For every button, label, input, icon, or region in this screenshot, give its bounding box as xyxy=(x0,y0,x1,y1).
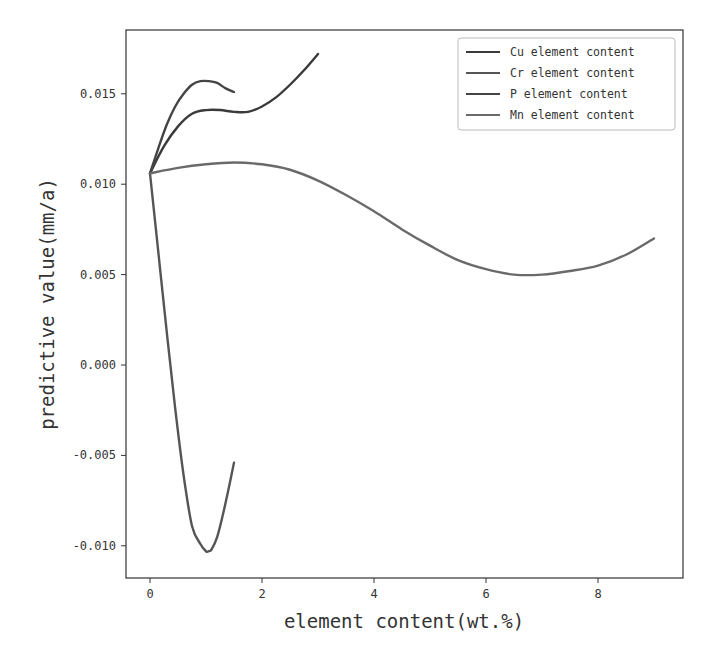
y-axis-ticks: -0.010-0.0050.0000.0050.0100.015 xyxy=(73,87,126,553)
legend: Cu element contentCr element contentP el… xyxy=(458,38,675,130)
y-tick-label: 0.005 xyxy=(80,268,116,282)
x-tick-label: 6 xyxy=(482,587,489,601)
series-line-p xyxy=(150,81,234,174)
y-tick-label: -0.005 xyxy=(73,448,116,462)
y-tick-label: 0.010 xyxy=(80,177,116,191)
legend-label: Cr element content xyxy=(510,66,635,80)
x-tick-label: 2 xyxy=(258,587,265,601)
series-line-cu xyxy=(150,54,318,173)
y-tick-label: 0.000 xyxy=(80,358,116,372)
legend-label: Mn element content xyxy=(510,108,635,122)
y-tick-label: -0.010 xyxy=(73,539,116,553)
legend-label: P element content xyxy=(510,87,628,101)
x-axis-label: element content(wt.%) xyxy=(284,610,524,632)
legend-label: Cu element content xyxy=(510,45,635,59)
y-axis-label: predictive value(mm/a) xyxy=(36,178,58,430)
series-line-cr xyxy=(150,173,234,551)
x-tick-label: 4 xyxy=(370,587,377,601)
x-axis-ticks: 02468 xyxy=(146,578,601,601)
x-tick-label: 0 xyxy=(146,587,153,601)
y-tick-label: 0.015 xyxy=(80,87,116,101)
series-line-mn xyxy=(150,163,654,276)
x-tick-label: 8 xyxy=(594,587,601,601)
line-chart: 02468 -0.010-0.0050.0000.0050.0100.015 e… xyxy=(0,0,716,663)
